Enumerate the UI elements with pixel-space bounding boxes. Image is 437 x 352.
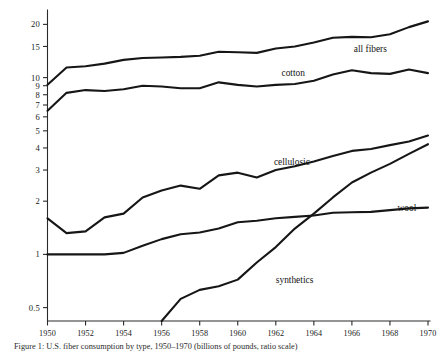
x-tick-label: 1964 (305, 329, 322, 338)
y-tick-label: 6 (36, 112, 41, 122)
series-line-wool (48, 208, 429, 255)
y-tick-label: 7 (36, 100, 41, 110)
series-label-cellulosic: cellulosic (274, 157, 310, 167)
y-tick-label: 15 (31, 42, 40, 52)
figure-caption: Figure 1: U.S. fiber consumption by type… (14, 341, 434, 352)
x-tick-label: 1950 (39, 329, 56, 338)
y-tick-label: 8 (36, 90, 41, 100)
series-line-cellulosic (48, 136, 429, 234)
y-tick-label: 0.5 (29, 303, 40, 313)
y-tick-label: 4 (36, 143, 41, 153)
line-chart: 0.5123456789101520 195019521954195619581… (0, 0, 437, 352)
x-tick-label: 1970 (420, 329, 437, 338)
series-label-cotton: cotton (282, 68, 306, 78)
x-tick-label: 1958 (191, 329, 208, 338)
series-lines (48, 21, 429, 321)
y-tick-label: 10 (31, 73, 40, 83)
series-labels: all fiberscottoncellulosicwoolsynthetics (274, 44, 417, 285)
series-line-cotton (48, 70, 429, 111)
x-tick-label: 1962 (267, 329, 284, 338)
series-label-wool: wool (398, 203, 417, 213)
y-tick-label: 3 (36, 165, 41, 175)
x-tick-label: 1954 (115, 329, 132, 338)
series-label-all-fibers: all fibers (354, 44, 387, 54)
x-tick-label: 1960 (229, 329, 246, 338)
x-axis: 1950195219541956195819601962196419661968… (39, 321, 436, 338)
x-tick-label: 1952 (77, 329, 94, 338)
x-tick-label: 1956 (153, 329, 170, 338)
y-tick-label: 5 (36, 126, 41, 136)
x-tick-label: 1966 (344, 329, 361, 338)
y-tick-label: 1 (36, 249, 41, 259)
y-axis: 0.5123456789101520 (29, 10, 48, 321)
series-label-synthetics: synthetics (276, 275, 314, 285)
y-tick-label: 20 (31, 19, 40, 29)
x-tick-label: 1968 (382, 329, 399, 338)
chart-figure: 0.5123456789101520 195019521954195619581… (0, 0, 437, 352)
y-tick-label: 2 (36, 196, 41, 206)
